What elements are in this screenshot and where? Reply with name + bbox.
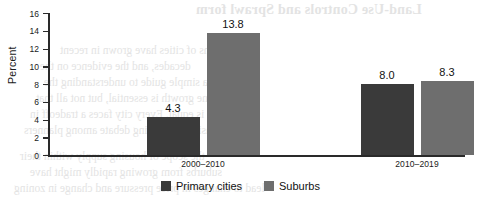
y-axis-tick: 16 [43, 13, 48, 14]
bar-suburbs[interactable]: 8.3 [421, 81, 474, 155]
y-axis-title: Percent [6, 46, 18, 84]
y-axis-line [48, 13, 50, 155]
y-axis-tick-label: 16 [30, 9, 39, 19]
y-axis-tick: 12 [43, 49, 48, 50]
y-axis-tick-label: 8 [34, 80, 39, 90]
legend-label-primary-cities: Primary cities [176, 180, 242, 192]
legend-item-primary-cities[interactable]: Primary cities [161, 180, 242, 192]
bar-value-label: 8.0 [379, 69, 394, 81]
x-axis-line [48, 155, 465, 157]
y-axis-tick-label: 2 [34, 133, 39, 143]
bar-suburbs[interactable]: 13.8 [207, 33, 260, 155]
bar-value-label: 4.3 [165, 102, 180, 114]
bar-value-label: 13.8 [222, 18, 243, 30]
legend-swatch-primary-cities [161, 181, 171, 191]
bar-primary-cities[interactable]: 4.3 [147, 117, 200, 155]
y-axis-tick: 8 [43, 84, 48, 85]
legend-swatch-suburbs [264, 181, 274, 191]
y-axis-tick-label: 6 [34, 97, 39, 107]
y-axis-tick-label: 12 [30, 44, 39, 54]
y-axis-tick: 2 [43, 137, 48, 138]
y-axis-tick: 0 [43, 155, 48, 156]
legend-label-suburbs: Suburbs [279, 180, 320, 192]
x-axis-category-label: 2010–2019 [395, 159, 438, 169]
y-axis-tick-label: 0 [34, 151, 39, 161]
legend-item-suburbs[interactable]: Suburbs [264, 180, 320, 192]
y-axis-tick: 6 [43, 102, 48, 103]
y-axis-tick: 14 [43, 31, 48, 32]
plot-area: 0246810121416 4.313.88.08.3 2000–2010201… [48, 13, 465, 155]
bar-value-label: 8.3 [439, 66, 454, 78]
y-axis-tick-label: 10 [30, 62, 39, 72]
bar-primary-cities[interactable]: 8.0 [361, 84, 414, 155]
y-axis-tick: 10 [43, 66, 48, 67]
y-axis-tick-label: 4 [34, 115, 39, 125]
y-axis-tick: 4 [43, 120, 48, 121]
chart-legend: Primary cities Suburbs [0, 180, 481, 192]
bar-chart: Land-Use Controls and Sprawl form Dozens… [0, 0, 481, 202]
y-axis-tick-label: 14 [30, 26, 39, 36]
x-axis-category-label: 2000–2010 [181, 159, 224, 169]
